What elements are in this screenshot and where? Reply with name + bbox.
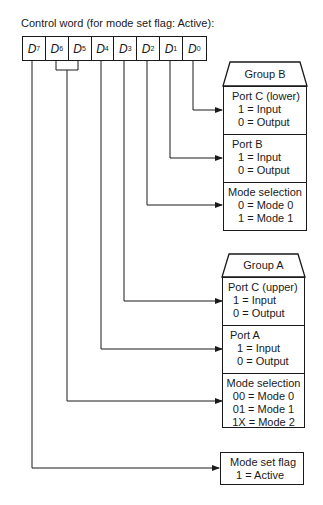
port-a-box: Port A 1 = Input 0 = Output bbox=[222, 325, 305, 374]
port-c-upper-line: 0 = Output bbox=[223, 307, 304, 320]
group-a-mode-selection-box: Mode selection 00 = Mode 0 01 = Mode 1 1… bbox=[222, 373, 305, 428]
mode-set-flag-line: 1 = Active bbox=[221, 469, 303, 482]
group-b-mode-selection-box: Mode selection 0 = Mode 0 1 = Mode 1 bbox=[223, 182, 307, 231]
bit-d4: D4 bbox=[92, 37, 115, 60]
port-c-lower-box: Port C (lower) 1 = Input 0 = Output bbox=[223, 86, 307, 135]
port-c-upper-title: Port C (upper) bbox=[223, 281, 304, 294]
port-c-upper-line: 1 = Input bbox=[223, 294, 304, 307]
port-b-line: 1 = Input bbox=[224, 151, 306, 164]
group-a-mode-line: 00 = Mode 0 bbox=[223, 390, 304, 403]
port-a-line: 1 = Input bbox=[223, 342, 304, 355]
mode-set-flag-title: Mode set flag bbox=[221, 456, 303, 469]
group-b-mode-line: 0 = Mode 0 bbox=[224, 199, 306, 212]
diagram-title: Control word (for mode set flag: Active)… bbox=[21, 17, 214, 29]
port-c-upper-box: Port C (upper) 1 = Input 0 = Output bbox=[222, 277, 305, 326]
port-c-lower-line: 0 = Output bbox=[224, 116, 306, 129]
port-b-title: Port B bbox=[224, 138, 306, 151]
group-a-mode-selection-title: Mode selection bbox=[223, 377, 304, 390]
group-b-label: Group B bbox=[223, 68, 307, 80]
bit-d1: D1 bbox=[160, 37, 183, 60]
bit-d6: D6 bbox=[46, 37, 69, 60]
bit-d7: D7 bbox=[23, 37, 46, 60]
bit-d3: D3 bbox=[114, 37, 137, 60]
port-a-line: 0 = Output bbox=[223, 355, 304, 368]
port-b-box: Port B 1 = Input 0 = Output bbox=[223, 134, 307, 183]
bit-d5: D5 bbox=[69, 37, 92, 60]
group-a-label: Group A bbox=[222, 259, 305, 271]
group-b-mode-selection-title: Mode selection bbox=[224, 186, 306, 199]
group-a-mode-line: 01 = Mode 1 bbox=[223, 403, 304, 416]
port-a-title: Port A bbox=[223, 329, 304, 342]
port-c-lower-line: 1 = Input bbox=[224, 103, 306, 116]
bit-d2: D2 bbox=[137, 37, 160, 60]
group-b-mode-line: 1 = Mode 1 bbox=[224, 212, 306, 225]
bit-d0: D0 bbox=[183, 37, 206, 60]
port-c-lower-title: Port C (lower) bbox=[224, 90, 306, 103]
group-a-mode-line: 1X = Mode 2 bbox=[223, 416, 304, 429]
control-word-register: D7 D6 D5 D4 D3 D2 D1 D0 bbox=[22, 36, 207, 61]
mode-set-flag-box: Mode set flag 1 = Active bbox=[220, 452, 304, 485]
port-b-line: 0 = Output bbox=[224, 164, 306, 177]
